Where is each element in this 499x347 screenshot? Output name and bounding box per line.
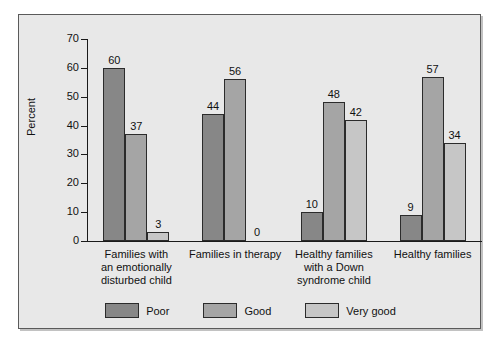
bar-value-label: 34 bbox=[435, 130, 475, 141]
y-axis-title: Percent bbox=[25, 77, 37, 157]
bar-value-label: 60 bbox=[94, 55, 134, 66]
category-label-line: an emotionally bbox=[75, 261, 198, 274]
y-axis-tick-label: 60 bbox=[55, 62, 79, 73]
legend-item: Very good bbox=[305, 303, 396, 318]
legend-item: Poor bbox=[105, 303, 169, 318]
bar: 44 bbox=[202, 114, 224, 241]
category-label-line: disturbed child bbox=[75, 274, 198, 287]
category-label-line: with a Down bbox=[273, 261, 396, 274]
legend-item: Good bbox=[203, 303, 271, 318]
y-axis-tick-label: 20 bbox=[55, 177, 79, 188]
bar-value-label: 57 bbox=[413, 64, 453, 75]
bar-value-label: 37 bbox=[116, 121, 156, 132]
bar: 34 bbox=[444, 143, 466, 241]
category-label-line: Healthy families bbox=[371, 248, 494, 261]
category-label-line: syndrome child bbox=[273, 274, 396, 287]
chart-legend: PoorGoodVery good bbox=[19, 303, 482, 318]
y-axis-tick-label: 0 bbox=[55, 235, 79, 246]
y-axis-tick-label: 10 bbox=[55, 206, 79, 217]
bar-value-label: 42 bbox=[336, 107, 376, 118]
y-axis-tick-label: 40 bbox=[55, 120, 79, 131]
legend-swatch bbox=[105, 303, 139, 318]
category-label: Healthy families bbox=[371, 248, 494, 261]
y-axis-line bbox=[87, 39, 88, 242]
chart-figure-frame: Percent 010203040506070 6037344560104842… bbox=[18, 14, 481, 329]
bar-value-label: 56 bbox=[215, 66, 255, 77]
bar: 60 bbox=[103, 68, 125, 241]
bar-value-label: 3 bbox=[138, 219, 178, 230]
legend-swatch bbox=[305, 303, 339, 318]
legend-swatch bbox=[203, 303, 237, 318]
y-axis-tick-label: 50 bbox=[55, 91, 79, 102]
bar: 48 bbox=[323, 102, 345, 241]
bar: 57 bbox=[422, 77, 444, 241]
y-axis-tick-label: 30 bbox=[55, 148, 79, 159]
bar-value-label: 48 bbox=[314, 89, 354, 100]
bar: 42 bbox=[345, 120, 367, 241]
bar: 3 bbox=[147, 232, 169, 241]
x-axis-line bbox=[87, 241, 482, 242]
legend-label: Very good bbox=[346, 305, 396, 317]
bar: 10 bbox=[301, 212, 323, 241]
bar-value-label: 0 bbox=[237, 227, 277, 238]
bar: 56 bbox=[224, 79, 246, 241]
y-axis-tick-label: 70 bbox=[55, 33, 79, 44]
plot-area: Percent 010203040506070 6037344560104842… bbox=[19, 15, 482, 330]
legend-label: Good bbox=[244, 305, 271, 317]
legend-label: Poor bbox=[146, 305, 169, 317]
bar: 9 bbox=[400, 215, 422, 241]
